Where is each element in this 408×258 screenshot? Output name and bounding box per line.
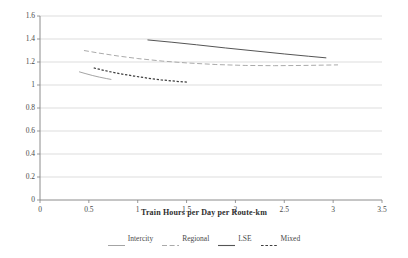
legend-item-intercity[interactable]: Intercity [108,234,153,243]
y-tick-label: 1 [9,81,35,89]
y-tick-label: 0.6 [9,127,35,135]
y-tick-label: 0.4 [9,150,35,158]
legend-item-regional[interactable]: Regional [162,234,209,243]
legend-label: Regional [182,234,209,243]
legend-swatch-icon [218,235,235,242]
y-tick-label: 1.4 [9,35,35,43]
series-line-mixed [94,68,189,82]
series-line-regional [84,51,338,66]
legend-label: Intercity [128,234,153,243]
y-tick-label: 0.2 [9,173,35,181]
chart-legend: IntercityRegionalLSEMixed [0,234,408,243]
legend-swatch-icon [261,235,278,242]
legend-swatch-icon [162,235,179,242]
x-axis-title: Train Hours per Day per Route-km [0,208,408,217]
series-line-intercity [79,72,111,80]
legend-swatch-icon [108,235,125,242]
legend-label: LSE [238,234,251,243]
legend-label: Mixed [281,234,301,243]
y-tick-label: 0 [9,196,35,204]
legend-item-mixed[interactable]: Mixed [261,234,301,243]
y-tick-label: 1.6 [9,12,35,20]
legend-item-lse[interactable]: LSE [218,234,251,243]
chart-plot-area [0,0,408,258]
chart-container: 00.20.40.60.811.21.41.6 00.511.522.533.5… [0,0,408,258]
y-tick-label: 0.8 [9,104,35,112]
y-tick-label: 1.2 [9,58,35,66]
series-line-lse [147,40,326,58]
